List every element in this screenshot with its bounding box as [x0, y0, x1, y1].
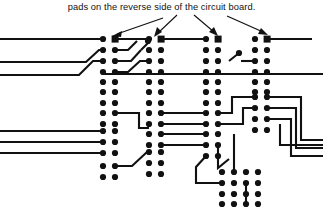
pad — [112, 47, 118, 53]
pad — [146, 89, 152, 95]
pad — [146, 58, 152, 64]
pad — [100, 89, 106, 95]
pad-group-2 — [146, 36, 165, 178]
pad — [215, 110, 221, 116]
pad — [252, 47, 258, 53]
pad — [158, 121, 164, 127]
pad — [146, 171, 152, 177]
pcb-layout-illustration — [0, 0, 323, 208]
pad — [203, 142, 209, 148]
pad-standalone-1 — [145, 38, 151, 44]
pad — [231, 169, 237, 175]
trace-g3-up-a — [218, 97, 255, 113]
pad — [146, 47, 152, 53]
pad — [100, 121, 106, 127]
pad — [255, 169, 261, 175]
pcb-svg — [0, 0, 323, 208]
pad — [215, 131, 221, 137]
pad — [100, 47, 106, 53]
pad — [219, 180, 225, 186]
pad — [231, 180, 237, 186]
pad — [203, 58, 209, 64]
pad — [100, 79, 106, 85]
pad — [112, 174, 118, 180]
pad — [243, 169, 249, 175]
trace-g3-up-b — [218, 108, 255, 124]
pad — [158, 110, 164, 116]
pad-pair-right-lower — [252, 127, 270, 133]
pad — [264, 94, 270, 100]
pad — [100, 69, 106, 75]
pad — [146, 131, 152, 137]
pad — [112, 163, 118, 169]
pad — [112, 139, 118, 145]
pad-group-bottom-grid — [219, 169, 261, 207]
pad — [100, 58, 106, 64]
pad — [215, 69, 221, 75]
pad — [255, 201, 261, 207]
pad — [203, 131, 209, 137]
pad — [219, 201, 225, 207]
pad — [215, 58, 221, 64]
pad — [252, 36, 258, 42]
trace-g1-lower-diag — [115, 152, 149, 166]
pad-group-4 — [252, 36, 271, 123]
pad — [252, 127, 258, 133]
pad — [112, 150, 118, 156]
pad — [203, 100, 209, 106]
pad — [158, 149, 164, 155]
pad — [112, 121, 118, 127]
annotation-arrow-layer — [112, 15, 268, 37]
pad — [158, 142, 164, 148]
pad — [243, 191, 249, 197]
pad — [264, 116, 270, 122]
pad — [158, 47, 164, 53]
pad — [203, 121, 209, 127]
trace-g4-right-b — [267, 108, 323, 148]
pad — [203, 89, 209, 95]
figure-root: pads on the reverse side of the circuit … — [0, 0, 323, 208]
pad — [203, 110, 209, 116]
trace-g1-step-down — [115, 113, 149, 128]
pad-group-1 — [100, 36, 119, 181]
square-pad-group-1 — [112, 36, 119, 43]
pad — [252, 69, 258, 75]
pad — [264, 69, 270, 75]
pad — [112, 128, 118, 134]
pad — [146, 160, 152, 166]
pad — [264, 127, 270, 133]
pad — [203, 69, 209, 75]
pad — [146, 79, 152, 85]
pad — [158, 171, 164, 177]
pad — [252, 94, 258, 100]
pad — [100, 110, 106, 116]
square-pad-group-3 — [215, 36, 222, 43]
pad — [100, 128, 106, 134]
pad — [146, 121, 152, 127]
pad — [252, 79, 258, 85]
pad — [243, 201, 249, 207]
pad — [158, 160, 164, 166]
pad — [215, 89, 221, 95]
pad — [215, 47, 221, 53]
pad — [255, 191, 261, 197]
pad — [158, 79, 164, 85]
pad — [203, 79, 209, 85]
arrow-to-pad-group-4 — [227, 16, 268, 35]
pad — [231, 201, 237, 207]
trace-g1-g2-row3 — [115, 61, 149, 72]
square-pad-group-4 — [264, 36, 271, 43]
pad — [100, 36, 106, 42]
pad — [112, 89, 118, 95]
pad — [215, 142, 221, 148]
pad — [203, 47, 209, 53]
pad — [100, 150, 106, 156]
pad — [231, 191, 237, 197]
pad — [252, 58, 258, 64]
pad — [146, 142, 152, 148]
pad — [146, 69, 152, 75]
pad — [264, 47, 270, 53]
arrow-to-pad-group-3 — [194, 15, 218, 36]
pad — [158, 131, 164, 137]
pad — [215, 79, 221, 85]
